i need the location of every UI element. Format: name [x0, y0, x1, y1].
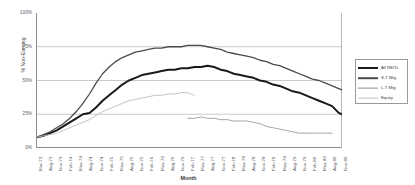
x-axis-tick-label: Feb-78	[231, 157, 236, 171]
x-axis-tick-label: Nov-76	[180, 157, 185, 171]
x-axis-tick-label: Feb-74	[68, 157, 73, 171]
x-axis-tick-label: Aug-74	[88, 157, 93, 171]
y-axis-tick-label: 50%	[6, 78, 32, 83]
x-axis-tick-label: Nov-80	[343, 157, 348, 171]
x-axis-tick-label: May-79	[282, 156, 287, 171]
x-axis-tick-label: Aug-75	[129, 157, 134, 171]
x-axis-tick-label: May-77	[200, 156, 205, 171]
x-axis-tick-label: Nov-75	[139, 157, 144, 171]
y-axis-tick-label: 75%	[6, 44, 32, 49]
x-axis-tick-label: May-76	[160, 156, 165, 171]
x-axis-tick-label: May-78	[241, 156, 246, 171]
x-axis-tick-label: Feb-75	[109, 157, 114, 171]
x-axis-tick-label: Feb-76	[149, 157, 154, 171]
y-axis-tick-label: 25%	[6, 111, 32, 116]
x-axis-tick-label: Aug-77	[210, 157, 215, 171]
x-axis-tick-label: Aug-73	[48, 157, 53, 171]
x-axis-tick-label: May-74	[78, 156, 83, 171]
legend-label: L-T Mtg	[381, 85, 396, 91]
y-axis-tick-label: 100%	[6, 10, 32, 15]
legend-item[interactable]: S-T Mtg	[358, 73, 405, 83]
legend-line-swatch	[358, 95, 378, 101]
y-axis-tick-label: 0%	[6, 145, 32, 150]
x-axis-tick-label: Aug-79	[292, 157, 297, 171]
legend-label: S-T Mtg	[381, 75, 396, 81]
x-axis-title: Month	[36, 175, 341, 181]
chart-legend: All REITsS-T MtgL-T MtgEquity	[355, 59, 408, 104]
x-axis-tick-label: Nov-77	[221, 157, 226, 171]
legend-label: All REITs	[381, 65, 398, 71]
plot-svg	[37, 13, 342, 148]
x-axis-tick-label: Aug-78	[251, 157, 256, 171]
x-axis-tick-label: May-75	[119, 156, 124, 171]
x-axis-tick-label: Aug-80	[332, 157, 337, 171]
x-axis-tick-label: Feb-79	[271, 157, 276, 171]
x-axis-tick-label: Aug-76	[170, 157, 175, 171]
series-line-all-reits	[37, 66, 342, 138]
x-axis-tick-label: May-80	[322, 156, 327, 171]
series-line-equity	[37, 93, 194, 138]
x-axis-tick-label: Feb-80	[312, 157, 317, 171]
y-axis-title: % Non-Earning	[20, 10, 26, 100]
legend-line-swatch	[358, 85, 378, 91]
x-axis-tick-labels: Mar-73Aug-73Nov-73Feb-74May-74Aug-74Nov-…	[36, 149, 341, 173]
legend-item[interactable]: L-T Mtg	[358, 83, 405, 93]
x-axis-tick-label: Mar-73	[38, 157, 43, 171]
x-axis-tick-label: Nov-73	[58, 157, 63, 171]
legend-line-swatch	[358, 65, 378, 71]
x-axis-tick-label: Feb-77	[190, 157, 195, 171]
series-line-l-t-mtg	[188, 117, 332, 133]
x-axis-tick-label: Nov-79	[302, 157, 307, 171]
x-axis-tick-label: Nov-74	[99, 157, 104, 171]
legend-label: Equity	[381, 95, 393, 101]
legend-line-swatch	[358, 75, 378, 81]
plot-area	[36, 13, 341, 148]
x-axis-tick-label: Nov-78	[261, 157, 266, 171]
legend-item[interactable]: Equity	[358, 93, 405, 103]
legend-item[interactable]: All REITs	[358, 63, 405, 73]
chart-container: % Non-Earning 0%25%50%75%100% Mar-73Aug-…	[0, 0, 415, 185]
